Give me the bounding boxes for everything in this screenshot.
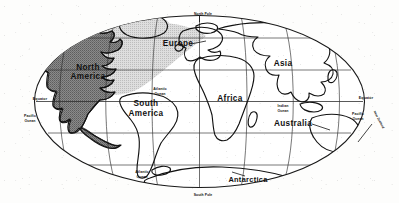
label-indian-ocean-line2: Ocean [277,109,288,113]
label-pacific-ocean-west-line2: Ocean [24,119,35,123]
label-antarctica: Antarctica [228,175,268,184]
label-new-zealand: New Zealand [373,110,386,129]
world-map-figure: North America South America Europe Afric… [0,0,399,203]
coastline-new-zealand [353,139,362,150]
label-atlantic-ocean-south-line1: Atlantic [135,170,149,174]
label-atlantic-ocean-north-line2: Ocean [154,92,165,96]
label-atlantic-ocean-south-line2: Ocean [136,175,147,179]
label-asia: Asia [274,59,293,68]
coastline-scandinavia [196,23,218,33]
label-pacific-ocean-east: Pacific Ocean [352,112,364,121]
label-africa: Africa [217,94,242,103]
label-north-america-line2: America [71,72,106,81]
label-indian-ocean: Indian Ocean [277,104,288,113]
label-south-america-line1: South [134,99,159,108]
coastline-baffin-island [102,15,123,25]
label-south-pole: South Pole [194,193,213,197]
label-pacific-ocean-west: Pacific Ocean [24,114,36,123]
label-pacific-ocean-east-line1: Pacific [352,112,364,116]
new-zealand-leader-line [358,124,372,142]
coastline-tasmania [337,154,342,159]
label-atlantic-ocean-north-line1: Atlantic [153,87,167,91]
label-atlantic-ocean-north: Atlantic Ocean [153,87,167,96]
label-australia: Australia [274,119,312,128]
label-north-pole: North Pole [194,12,212,16]
label-pacific-ocean-west-line1: Pacific [24,114,36,118]
label-europe: Europe [163,39,193,48]
label-indian-ocean-line1: Indian [278,104,289,108]
label-north-america-line1: North [76,63,100,72]
label-south-america: South America [129,99,164,118]
label-equator-west: Equator [33,97,48,101]
label-equator-east: Equator [359,96,374,100]
label-south-america-line2: America [129,109,164,118]
label-pacific-ocean-east-line2: Ocean [352,117,363,121]
world-map-canvas: North America South America Europe Afric… [0,0,399,203]
label-atlantic-ocean-south: Atlantic Ocean [135,170,149,179]
